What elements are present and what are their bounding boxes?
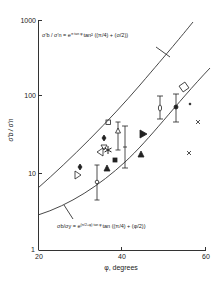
y-tick-label-100: 100: [24, 92, 36, 99]
upper-curve: [38, 22, 193, 188]
marker-triangle-right-filled: [140, 130, 147, 138]
axes: [39, 20, 207, 251]
marker-square-filled: [113, 158, 117, 162]
lower-formula: σb/σy = e(π/2+φ) tan φtan ((π/4) + (φ/2)…: [57, 223, 146, 229]
marker-x: [196, 120, 200, 124]
marker-triangle-up-filled: [104, 165, 110, 171]
errorbar-ellipse-open: [157, 96, 163, 119]
curves: [38, 22, 210, 219]
marker-triangle-up-filled: [138, 151, 144, 157]
x-tick-label-60: 60: [202, 253, 210, 260]
data-points: [75, 81, 200, 200]
marker-diamond-open: [178, 81, 190, 93]
errorbar-circle-filled: [173, 94, 179, 122]
marker-triangle-left-open: [97, 148, 103, 156]
chart: 1000 100 10 1 20 40 60 φ, degrees σ'b / …: [0, 0, 222, 287]
lower-curve: [38, 68, 210, 215]
errorbar-triangle-open: [116, 122, 121, 150]
errorbar-plus: [122, 126, 128, 168]
x-tick-label-20: 20: [35, 253, 43, 260]
marker-dot: [189, 103, 191, 105]
y-axis-title: σ'b / σ'n: [7, 118, 14, 141]
marker-diamond-filled: [102, 135, 106, 141]
y-tick-label-10: 10: [28, 170, 36, 177]
y-tick-label-1: 1: [31, 246, 35, 253]
x-axis-title: φ, degrees: [104, 264, 138, 272]
marker-diamond-filled: [78, 164, 82, 170]
lower-leader-line: [64, 205, 73, 219]
marker-x: [187, 151, 191, 155]
y-tick-label-1000: 1000: [20, 17, 36, 24]
marker-triangle-right-open: [75, 171, 81, 179]
x-tick-label-40: 40: [118, 253, 126, 260]
errorbar-circle-open: [95, 165, 100, 200]
upper-formula: σ'b / σ'n = eπ tan φtan² ((π/4) + (σ/2)): [42, 32, 128, 38]
